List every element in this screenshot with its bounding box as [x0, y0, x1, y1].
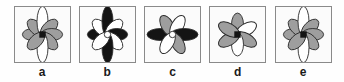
answer-option-a[interactable]: a — [13, 6, 71, 79]
answer-option-b[interactable]: b — [78, 6, 136, 79]
answer-option-c[interactable]: c — [144, 6, 202, 79]
flower-a-box[interactable] — [14, 6, 71, 63]
answer-option-row: abcde — [0, 0, 344, 82]
flower-center — [169, 31, 175, 37]
figure-canvas: abcde — [0, 0, 344, 82]
flower-b-box[interactable] — [79, 6, 136, 63]
flower-e-box[interactable] — [275, 6, 332, 63]
answer-option-label-d: d — [234, 65, 241, 79]
flower-d-icon — [210, 7, 265, 62]
flower-center — [104, 31, 110, 37]
answer-option-label-e: e — [300, 65, 307, 79]
flower-d-box[interactable] — [209, 6, 266, 63]
flower-center — [39, 31, 45, 37]
answer-option-label-a: a — [39, 65, 46, 79]
answer-option-label-c: c — [169, 65, 176, 79]
flower-e-icon — [276, 7, 331, 62]
answer-option-d[interactable]: d — [209, 6, 267, 79]
flower-b-icon — [80, 7, 135, 62]
flower-center — [300, 31, 306, 37]
flower-c-box[interactable] — [144, 6, 201, 63]
flower-c-icon — [145, 7, 200, 62]
flower-center — [235, 31, 241, 37]
flower-a-icon — [15, 7, 70, 62]
answer-option-label-b: b — [104, 65, 111, 79]
answer-option-e[interactable]: e — [274, 6, 332, 79]
